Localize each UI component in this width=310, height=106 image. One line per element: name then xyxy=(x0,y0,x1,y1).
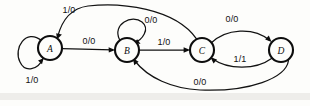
state-node-a[interactable]: A xyxy=(38,36,62,60)
transition-label-b-c: 1/0 xyxy=(157,37,170,47)
state-machine-diagram: A B C D 1/0 0/0 0/0 1/0 1/0 0/0 1/1 0/0 xyxy=(0,0,310,106)
transition-c-d xyxy=(211,31,272,43)
transition-label-b-self: 0/0 xyxy=(144,15,157,25)
state-node-d[interactable]: D xyxy=(269,38,293,62)
transition-label-d-b: 0/0 xyxy=(193,77,206,87)
state-label-a: A xyxy=(46,44,53,54)
state-label-b: B xyxy=(124,46,130,56)
state-label-c: C xyxy=(199,46,206,56)
transition-label-a-self: 1/0 xyxy=(25,75,38,85)
transition-label-d-c: 1/1 xyxy=(233,54,246,64)
state-node-c[interactable]: C xyxy=(190,38,214,62)
state-node-b[interactable]: B xyxy=(115,38,139,62)
transition-label-a-b: 0/0 xyxy=(82,36,95,46)
transition-a-b xyxy=(62,47,115,52)
transition-label-c-d: 0/0 xyxy=(225,14,238,24)
transition-b-c xyxy=(139,47,190,52)
arrowhead-c-d xyxy=(265,35,271,42)
state-label-d: D xyxy=(277,46,285,56)
diagram-canvas: A B C D 1/0 0/0 0/0 1/0 1/0 0/0 1/1 0/0 xyxy=(0,0,310,106)
transition-label-c-a: 1/0 xyxy=(62,5,75,15)
transition-c-a xyxy=(56,5,196,40)
transition-d-b xyxy=(133,58,289,90)
